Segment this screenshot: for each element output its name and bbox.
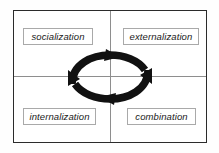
quadrant-label-combination: combination — [127, 108, 196, 125]
quadrant-label-internalization: internalization — [23, 108, 96, 125]
quadrant-label-externalization: externalization — [123, 28, 199, 45]
seci-diagram: socialization externalization internaliz… — [0, 0, 219, 153]
quadrant-label-socialization: socialization — [23, 28, 93, 45]
knowledge-cycle-arrows-icon — [62, 48, 158, 106]
